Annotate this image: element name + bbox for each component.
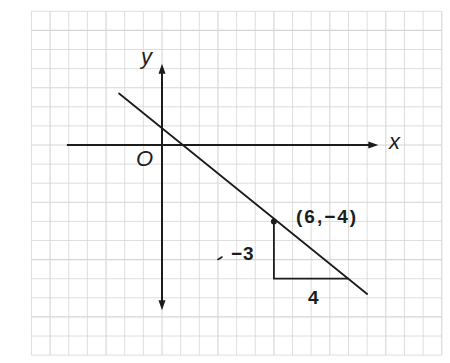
coordinate-plane-figure: y x O (6,−4) −3 4: [0, 0, 450, 363]
y-axis-down-arrow-icon: [159, 300, 166, 310]
graph-canvas: [0, 0, 450, 363]
run-label: 4: [308, 288, 319, 307]
rise-label: −3: [231, 244, 255, 263]
point-marker: [271, 218, 277, 224]
point-label: (6,−4): [296, 207, 358, 226]
x-axis-label: x: [389, 131, 400, 153]
origin-label: O: [136, 148, 153, 170]
y-axis-label: y: [141, 46, 152, 68]
x-axis-arrow-icon: [368, 142, 378, 149]
